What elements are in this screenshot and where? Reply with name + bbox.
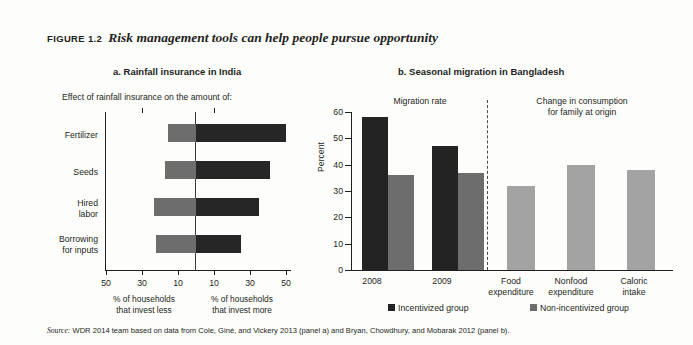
panel-b-xlabel-caloric-line2: intake (605, 287, 663, 298)
panel-a-caption-right-line1: % of households (194, 294, 290, 305)
panel-a-bottom-axis (106, 270, 291, 271)
panel-a-tick-neg30 (142, 271, 143, 275)
panel-a-bar-fertilizer-less (168, 124, 196, 142)
panel-b-ylabel-0: 0 (321, 265, 343, 275)
panel-a-category-fertilizer: Fertilizer (40, 130, 98, 141)
panel-a-caption-right-line2: that invest more (194, 305, 290, 316)
panel-a-category-borrowing-line2: for inputs (30, 245, 98, 256)
panel-b-ylabel-60: 60 (321, 107, 343, 117)
panel-b-bottom-axis (351, 270, 673, 271)
panel-b-bar-2009-nonincentivized (458, 173, 484, 270)
panel-b-bar-2008-nonincentivized (388, 175, 414, 270)
panel-b-xlabel-2008: 2008 (350, 276, 394, 287)
figure-heading: FIGURE 1.2Risk management tools can help… (47, 28, 438, 46)
panel-a-category-hired-labor-line2: labor (40, 209, 98, 220)
panel-b-group-heading-migration: Migration rate (356, 96, 484, 107)
panel-a-xlabel-pos50: 50 (273, 278, 299, 288)
panel-b-ylabel-20: 20 (321, 212, 343, 222)
panel-b-bar-caloric-intake (627, 170, 655, 270)
legend-label-incentivized: Incentivized group (398, 303, 469, 313)
panel-b-ytick-40 (345, 165, 351, 166)
panel-a-bar-hired-labor-more (196, 198, 259, 216)
panel-a-left-axis (105, 112, 106, 271)
figure-page: FIGURE 1.2Risk management tools can help… (0, 0, 693, 345)
panel-a-caption-right: % of households that invest more (194, 294, 290, 316)
panel-a-tick-neg50 (106, 271, 107, 275)
source-note: Source: WDR 2014 team based on data from… (47, 326, 510, 335)
panel-a-category-hired-labor-line1: Hired (40, 198, 98, 209)
panel-b-plot-area (352, 112, 673, 270)
figure-number: FIGURE 1.2 (47, 33, 102, 44)
panel-a-top-tick-1 (142, 108, 143, 113)
panel-a-xlabel-pos30: 30 (237, 278, 263, 288)
panel-a-category-borrowing-line1: Borrowing (30, 234, 98, 245)
panel-a-top-tick-2 (214, 108, 215, 113)
panel-b-bar-2009-incentivized (432, 146, 458, 270)
panel-a-category-seeds: Seeds (40, 167, 98, 178)
panel-b-bar-nonfood-expenditure (567, 165, 595, 270)
panel-a-bar-seeds-more (196, 161, 270, 179)
legend-label-nonincentivized: Non-incentivized group (540, 303, 629, 313)
panel-a-xlabel-neg50: 50 (93, 278, 119, 288)
panel-b-xlabel-2009-line1: 2009 (420, 276, 464, 287)
panel-a-caption-left: % of households that invest less (96, 294, 192, 316)
panel-b-ytick-60 (345, 112, 351, 113)
panel-b-ytick-20 (345, 217, 351, 218)
panel-b-ylabel-30: 30 (321, 186, 343, 196)
panel-a-tick-neg10 (178, 271, 179, 275)
panel-b-ylabel-40: 40 (321, 160, 343, 170)
panel-b-bar-2008-incentivized (362, 117, 388, 270)
panel-b-xlabel-nonfood: Nonfood expenditure (535, 276, 607, 297)
panel-b-ytick-50 (345, 138, 351, 139)
panel-a-bar-hired-labor-less (154, 198, 196, 216)
panel-a-bar-borrowing-less (156, 235, 196, 253)
panel-b-title: b. Seasonal migration in Bangladesh (398, 66, 564, 77)
legend-swatch-nonincentivized-icon (530, 304, 537, 311)
panel-b-ytick-10 (345, 244, 351, 245)
panel-b-xlabel-2008-line1: 2008 (350, 276, 394, 287)
panel-a-category-hired-labor: Hired labor (40, 198, 98, 219)
legend-swatch-incentivized-icon (388, 304, 395, 311)
legend-item-nonincentivized: Non-incentivized group (530, 303, 629, 313)
panel-a-title: a. Rainfall insurance in India (113, 66, 241, 77)
panel-a-tick-pos30 (250, 271, 251, 275)
panel-a-xlabel-neg10: 10 (165, 278, 191, 288)
panel-a-xlabel-pos10: 10 (201, 278, 227, 288)
panel-b-ytick-30 (345, 191, 351, 192)
panel-a-tick-pos10 (214, 271, 215, 275)
panel-a-bar-seeds-less (165, 161, 196, 179)
panel-b-xlabel-2009: 2009 (420, 276, 464, 287)
panel-a-subnote: Effect of rainfall insurance on the amou… (62, 92, 232, 102)
figure-title: Risk management tools can help people pu… (108, 30, 438, 45)
panel-b-group-heading-consumption-line1: Change in consumption (492, 96, 672, 107)
panel-b-ytick-0 (345, 270, 351, 271)
panel-b-xlabel-nonfood-line2: expenditure (535, 287, 607, 298)
panel-a-caption-left-line1: % of households (96, 294, 192, 305)
panel-a-category-borrowing: Borrowing for inputs (30, 234, 98, 255)
panel-b-bar-food-expenditure (507, 186, 535, 270)
panel-a-xlabel-neg30: 30 (129, 278, 155, 288)
panel-a-caption-left-line2: that invest less (96, 305, 192, 316)
panel-a-bar-fertilizer-more (196, 124, 286, 142)
panel-b-ylabel-10: 10 (321, 239, 343, 249)
legend-item-incentivized: Incentivized group (388, 303, 469, 313)
source-text: WDR 2014 team based on data from Cole, G… (72, 326, 509, 335)
panel-a-tick-pos50 (286, 271, 287, 275)
panel-b-xlabel-caloric: Caloric intake (605, 276, 663, 297)
panel-b-ylabel-50: 50 (321, 133, 343, 143)
panel-a-bar-borrowing-more (196, 235, 241, 253)
source-label: Source: (47, 326, 70, 335)
panel-b-xlabel-nonfood-line1: Nonfood (535, 276, 607, 287)
panel-b-xlabel-caloric-line1: Caloric (605, 276, 663, 287)
